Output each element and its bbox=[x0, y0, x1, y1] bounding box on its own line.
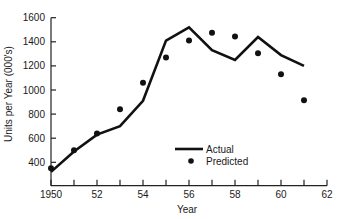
legend-label-actual: Actual bbox=[206, 144, 234, 155]
predicted-point bbox=[209, 30, 215, 36]
x-tick-label: 62 bbox=[321, 189, 333, 200]
y-tick-label: 1400 bbox=[23, 36, 46, 47]
predicted-point bbox=[186, 38, 192, 44]
x-axis-label: Year bbox=[177, 204, 198, 215]
x-tick-label: 54 bbox=[137, 189, 149, 200]
predicted-point bbox=[71, 147, 77, 153]
x-tick-label: 1950 bbox=[40, 189, 63, 200]
y-tick-label: 1000 bbox=[23, 85, 46, 96]
x-tick-label: 60 bbox=[275, 189, 287, 200]
x-tick-label: 56 bbox=[183, 189, 195, 200]
x-tick-label: 58 bbox=[229, 189, 241, 200]
y-tick-label: 1600 bbox=[23, 12, 46, 23]
y-axis-label: Units per Year (000's) bbox=[3, 46, 14, 142]
x-tick-label: 52 bbox=[91, 189, 103, 200]
legend-label-predicted: Predicted bbox=[206, 156, 248, 167]
predicted-point bbox=[94, 130, 100, 136]
predicted-point bbox=[278, 71, 284, 77]
predicted-point bbox=[232, 33, 238, 39]
predicted-point bbox=[255, 50, 261, 56]
y-tick-label: 600 bbox=[28, 133, 45, 144]
predicted-point bbox=[117, 106, 123, 112]
x-axis: 1950525456586062 bbox=[40, 180, 333, 201]
y-axis: 4006008001000120014001600 bbox=[23, 12, 56, 185]
line-chart: 4006008001000120014001600 19505254565860… bbox=[0, 0, 338, 219]
legend-dot-swatch bbox=[188, 158, 194, 164]
legend: Actual Predicted bbox=[175, 144, 248, 167]
predicted-point bbox=[140, 80, 146, 86]
y-tick-label: 1200 bbox=[23, 60, 46, 71]
predicted-point bbox=[48, 165, 54, 171]
predicted-point bbox=[301, 97, 307, 103]
predicted-point bbox=[163, 54, 169, 60]
y-tick-label: 800 bbox=[28, 109, 45, 120]
y-tick-label: 400 bbox=[28, 157, 45, 168]
